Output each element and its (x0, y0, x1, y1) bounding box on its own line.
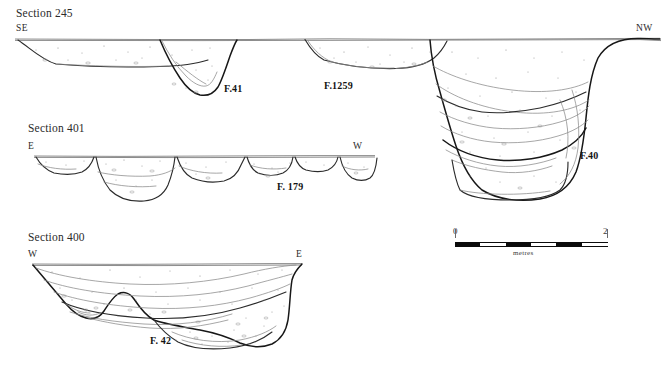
section-401-linework (34, 156, 377, 202)
scale-bar-segment-3 (506, 242, 531, 247)
section-linework: .gl { fill:none; stroke:#6f6f6f; stroke-… (0, 0, 671, 368)
scale-bar-segment-4 (531, 242, 556, 247)
scale-bar-segment-6 (582, 242, 608, 247)
section-401-left-orientation: E (28, 142, 34, 152)
scale-bar-track (455, 242, 608, 247)
section-401-title: Section 401 (28, 123, 85, 135)
section-245-linework (15, 38, 661, 200)
feature-label-f40: F.40 (580, 151, 599, 161)
scale-bar-tick-end (607, 229, 608, 238)
feature-label-f1259: F.1259 (324, 81, 353, 91)
feature-label-f41: F.41 (224, 84, 243, 94)
scale-bar: 0 2 metres (455, 238, 608, 262)
scale-bar-unit-label: metres (513, 250, 533, 257)
section-401-right-orientation: W (353, 142, 362, 152)
section-400-title: Section 400 (28, 232, 85, 244)
scale-bar-segment-2 (480, 242, 506, 247)
section-245-left-orientation: SE (16, 24, 28, 34)
scale-bar-segment-1 (455, 242, 480, 247)
section-245-right-orientation: NW (636, 24, 653, 34)
section-245-title: Section 245 (16, 8, 73, 20)
feature-label-f179: F. 179 (277, 182, 303, 192)
scale-bar-tick-start (455, 229, 456, 238)
section-drawing-sheet: .gl { fill:none; stroke:#6f6f6f; stroke-… (0, 0, 671, 368)
scale-bar-segment-5 (556, 242, 582, 247)
feature-label-f42: F. 42 (150, 336, 171, 346)
section-400-left-orientation: W (28, 250, 37, 260)
section-400-right-orientation: E (296, 250, 302, 260)
